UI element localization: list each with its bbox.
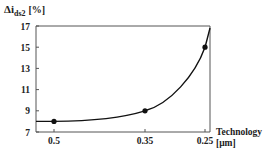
y-tick-label: 7 <box>25 128 30 138</box>
x-tick-label: 0.35 <box>137 136 154 146</box>
data-point <box>51 119 56 124</box>
y-tick-label: 15 <box>21 43 31 53</box>
chart: Δids2[%] 7911131517 0.50.350.25 Technolo… <box>0 0 265 152</box>
data-point <box>142 108 147 113</box>
x-tick-label: 0.25 <box>197 136 214 146</box>
data-point <box>202 45 207 50</box>
y-axis-label: Δids2[%] <box>4 3 45 18</box>
data-curve <box>36 28 210 121</box>
y-tick-label: 11 <box>21 85 30 95</box>
x-axis-unit: [μm] <box>216 138 236 148</box>
x-axis-label: Technology <box>216 127 262 137</box>
y-tick-label: 17 <box>21 22 31 32</box>
data-markers <box>51 45 207 124</box>
y-tick-label: 9 <box>25 106 30 116</box>
x-tick-label: 0.5 <box>48 136 60 146</box>
y-tick-label: 13 <box>21 64 31 74</box>
